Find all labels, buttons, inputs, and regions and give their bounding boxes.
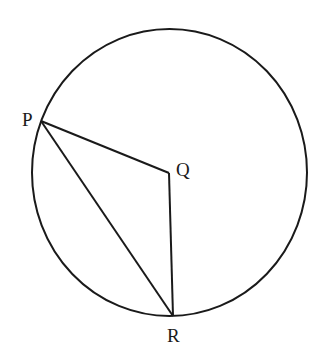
point-label-p: P <box>22 110 33 129</box>
point-label-q: Q <box>176 160 190 179</box>
circle <box>32 29 307 316</box>
segment-qr <box>169 173 173 316</box>
point-label-r: R <box>167 326 180 345</box>
circle-diagram <box>0 0 324 361</box>
segment-pq <box>41 121 169 173</box>
segment-pr <box>41 121 173 316</box>
